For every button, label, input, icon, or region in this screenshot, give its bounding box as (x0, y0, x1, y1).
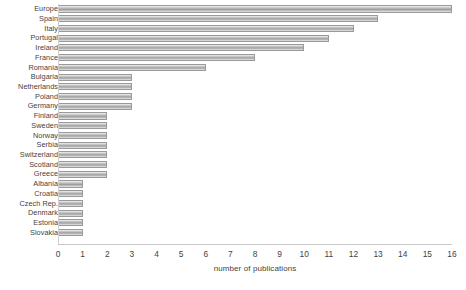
bar-row: Switzerland (0, 150, 466, 160)
bar (58, 200, 83, 207)
category-label: Ireland (0, 43, 58, 53)
bar (58, 103, 132, 110)
category-label: Italy (0, 24, 58, 34)
category-label: Germany (0, 101, 58, 111)
category-label: Norway (0, 131, 58, 141)
bar (58, 25, 354, 32)
bar-row: Czech Rep. (0, 199, 466, 209)
bar-track (58, 25, 354, 32)
category-label: Europe (0, 4, 58, 14)
bar (58, 44, 304, 51)
bar-track (58, 112, 107, 119)
bar-row: Finland (0, 111, 466, 121)
bar (58, 171, 107, 178)
bar-chart: EuropeSpainItalyPortugalIrelandFranceRom… (0, 0, 466, 290)
bar-track (58, 219, 83, 226)
category-label: Switzerland (0, 150, 58, 160)
bar-track (58, 190, 83, 197)
x-tick-label: 16 (432, 248, 466, 260)
bar-row: Norway (0, 131, 466, 141)
bar-track (58, 54, 255, 61)
bar-row: Slovakia (0, 228, 466, 238)
bar-row: Germany (0, 101, 466, 111)
bar-track (58, 5, 452, 12)
bar-row: Netherlands (0, 82, 466, 92)
bar-track (58, 151, 107, 158)
bar-track (58, 122, 107, 129)
bar-track (58, 44, 304, 51)
category-label: Greece (0, 169, 58, 179)
bar (58, 132, 107, 139)
y-axis-line (58, 4, 59, 245)
category-label: Croatia (0, 189, 58, 199)
bar-track (58, 180, 83, 187)
category-label: Scotland (0, 160, 58, 170)
bar (58, 54, 255, 61)
bar (58, 15, 378, 22)
bar (58, 190, 83, 197)
category-label: Czech Rep. (0, 199, 58, 209)
bar-track (58, 35, 329, 42)
category-label: Romania (0, 63, 58, 73)
bar (58, 35, 329, 42)
bar-row: Ireland (0, 43, 466, 53)
bar-track (58, 93, 132, 100)
bar (58, 74, 132, 81)
bar-track (58, 83, 132, 90)
category-label: Netherlands (0, 82, 58, 92)
bar-row: Romania (0, 63, 466, 73)
bar-row: Serbia (0, 140, 466, 150)
bar-row: Italy (0, 24, 466, 34)
bar (58, 219, 83, 226)
bar (58, 151, 107, 158)
bar-row: Spain (0, 14, 466, 24)
category-label: Estonia (0, 218, 58, 228)
bar (58, 83, 132, 90)
category-label: Bulgaria (0, 72, 58, 82)
bar-track (58, 103, 132, 110)
x-axis-title: number of publications (58, 264, 452, 273)
category-label: Portugal (0, 33, 58, 43)
bar (58, 122, 107, 129)
bar-row: Croatia (0, 189, 466, 199)
category-label: Finland (0, 111, 58, 121)
bar-row: Scotland (0, 160, 466, 170)
bar-track (58, 229, 83, 236)
bar (58, 112, 107, 119)
x-axis-line (58, 244, 452, 245)
category-label: Sweden (0, 121, 58, 131)
bar (58, 210, 83, 217)
category-label: Albania (0, 179, 58, 189)
bar-track (58, 171, 107, 178)
bar-track (58, 15, 378, 22)
bar (58, 161, 107, 168)
category-label: Spain (0, 14, 58, 24)
bar-row: Greece (0, 169, 466, 179)
bar-track (58, 161, 107, 168)
bar-row: France (0, 53, 466, 63)
bar-track (58, 210, 83, 217)
category-label: Serbia (0, 140, 58, 150)
bar (58, 93, 132, 100)
bar (58, 5, 452, 12)
category-label: France (0, 53, 58, 63)
bar-track (58, 200, 83, 207)
bar-row: Albania (0, 179, 466, 189)
category-label: Slovakia (0, 228, 58, 238)
bar-row: Portugal (0, 33, 466, 43)
bar-row: Estonia (0, 218, 466, 228)
bar-row: Bulgaria (0, 72, 466, 82)
category-label: Denmark (0, 208, 58, 218)
plot-area: EuropeSpainItalyPortugalIrelandFranceRom… (0, 0, 466, 244)
bar-track (58, 132, 107, 139)
bar-row: Europe (0, 4, 466, 14)
bar (58, 229, 83, 236)
category-label: Poland (0, 92, 58, 102)
bar-track (58, 142, 107, 149)
bar (58, 142, 107, 149)
x-axis-tick-labels: 012345678910111213141516 (0, 248, 466, 262)
bar (58, 64, 206, 71)
bar-track (58, 64, 206, 71)
bar-track (58, 74, 132, 81)
bar-row: Sweden (0, 121, 466, 131)
